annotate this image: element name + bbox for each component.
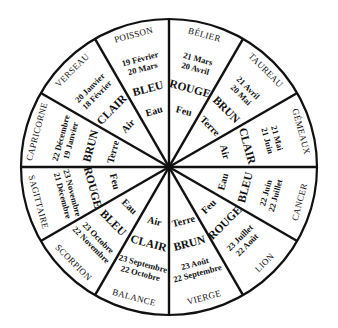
element-label: Eau — [144, 103, 164, 118]
color-label: BRUN — [172, 233, 207, 253]
color-label: BRUN — [80, 128, 100, 163]
sign-label: BÉLIER — [187, 26, 222, 44]
element-label: Feu — [175, 103, 194, 118]
sign-label: VIERGE — [186, 288, 222, 307]
element-label: Eau — [120, 196, 140, 216]
sign-label: CANCER — [290, 182, 310, 222]
color-label: BLEU — [235, 170, 255, 204]
zodiac-wheel: BÉLIER21 Mars20 AvrilROUGEFeuTAUREAU21 A… — [0, 0, 338, 328]
element-label: Terre — [171, 212, 197, 229]
element-label: Air — [218, 144, 233, 161]
sign-label: SCORPION — [53, 242, 93, 282]
element-label: Terre — [104, 139, 121, 165]
element-label: Eau — [215, 171, 230, 191]
element-label: Feu — [199, 197, 218, 216]
sign-label: VERSEAU — [53, 51, 91, 89]
element-label: Feu — [108, 172, 123, 191]
color-label: ROUGE — [168, 77, 212, 100]
color-label: CLAIR — [129, 232, 169, 253]
sign-label: SAGITTAIRE — [27, 174, 51, 230]
color-label: ROUGE — [82, 165, 105, 209]
sign-label: GÉMEAUX — [290, 108, 312, 156]
color-label: BLEU — [131, 78, 165, 98]
sign-label: CAPRICORNE — [24, 101, 49, 162]
element-label: Air — [146, 214, 163, 229]
element-label: Terre — [198, 114, 223, 139]
sign-label: LION — [253, 251, 276, 274]
element-label: Air — [119, 116, 137, 134]
divider-lines — [21, 19, 317, 315]
color-label: CLAIR — [237, 126, 258, 166]
